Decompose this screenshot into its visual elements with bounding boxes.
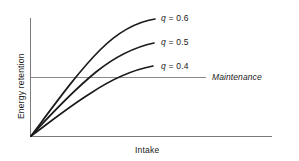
series-value-0-6: = 0.6 (166, 13, 189, 23)
series-label-q-0-4: q = 0.4 (161, 62, 189, 71)
series-label-q-0-6: q = 0.6 (161, 14, 189, 23)
series-value-0-5: = 0.5 (166, 37, 189, 47)
maintenance-line-label: Maintenance (212, 73, 262, 82)
y-axis-label: Energy retention (17, 53, 26, 119)
energy-retention-chart: q = 0.6 q = 0.5 q = 0.4 Maintenance Inta… (0, 0, 299, 161)
x-axis-label: Intake (135, 146, 159, 155)
series-label-q-0-5: q = 0.5 (161, 38, 189, 47)
series-value-0-4: = 0.4 (166, 61, 189, 71)
curve-q-0-4 (31, 66, 153, 136)
